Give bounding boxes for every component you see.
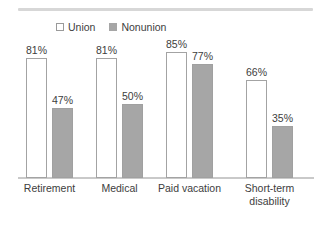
bar-value-label-union-1: 81% <box>90 44 123 56</box>
bar-nonunion-0 <box>52 108 73 178</box>
bar-union-3 <box>246 80 267 178</box>
category-label-line1-0: Retirement <box>14 182 85 195</box>
chart-container: Union Nonunion 81%81%85%66%47%50%77%35% … <box>0 0 331 227</box>
bar-value-label-nonunion-2: 77% <box>186 50 219 62</box>
bar-nonunion-1 <box>122 104 143 178</box>
bar-value-label-nonunion-1: 50% <box>116 90 149 102</box>
category-label-2: Paid vacation <box>154 182 225 195</box>
category-label-line2-3: disability <box>234 195 305 208</box>
bar-union-1 <box>96 58 117 178</box>
bar-value-label-union-3: 66% <box>240 66 273 78</box>
bar-nonunion-3 <box>272 126 293 178</box>
category-label-0: Retirement <box>14 182 85 195</box>
category-label-1: Medical <box>84 182 155 195</box>
bar-union-2 <box>166 52 187 178</box>
bar-value-label-nonunion-3: 35% <box>266 112 299 124</box>
plot-area: 81%81%85%66%47%50%77%35% RetirementMedic… <box>0 0 331 227</box>
category-label-line1-1: Medical <box>84 182 155 195</box>
bar-nonunion-2 <box>192 64 213 178</box>
bar-value-label-union-2: 85% <box>160 38 193 50</box>
category-label-line1-3: Short-term <box>234 182 305 195</box>
bar-union-0 <box>26 58 47 178</box>
category-label-line1-2: Paid vacation <box>154 182 225 195</box>
category-label-3: Short-termdisability <box>234 182 305 208</box>
bar-value-label-union-0: 81% <box>20 44 53 56</box>
bar-value-label-nonunion-0: 47% <box>46 94 79 106</box>
